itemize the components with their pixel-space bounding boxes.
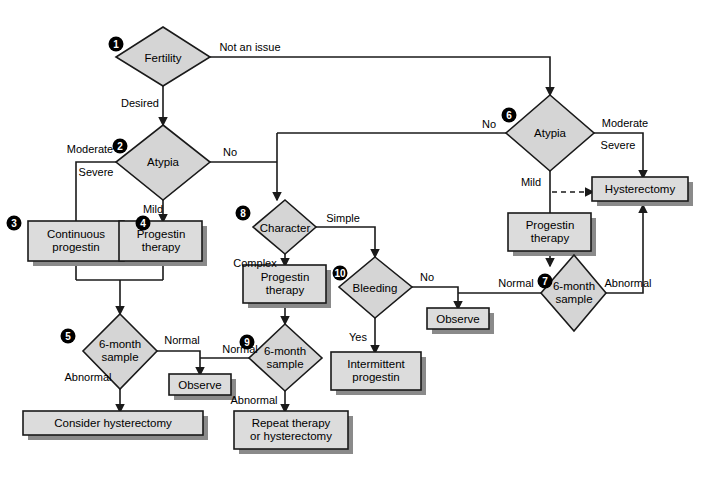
edge-label-severe-2: Severe bbox=[79, 166, 114, 178]
step-badge-4: 4 bbox=[136, 216, 151, 231]
diamond-atypia-2[interactable] bbox=[116, 125, 210, 200]
flowchart-canvas: Fertility Atypia 6-month sample Atypia 6… bbox=[0, 0, 712, 488]
box-progestin-therapy-6[interactable] bbox=[508, 213, 591, 251]
diamond-fertility[interactable] bbox=[116, 27, 210, 86]
edge-label-abnormal-5: Abnormal bbox=[64, 371, 111, 383]
edge-label-abnormal-7: Abnormal bbox=[604, 277, 651, 289]
edge-label-normal-7: Normal bbox=[498, 277, 533, 289]
box-continuous-progestin[interactable] bbox=[28, 221, 124, 261]
edge-label-normal-5: Normal bbox=[164, 334, 199, 346]
step-badge-1: 1 bbox=[109, 37, 124, 52]
edge-no-10 bbox=[412, 287, 458, 309]
box-progestin-therapy-4[interactable] bbox=[119, 221, 202, 261]
step-badge-10: 10 bbox=[333, 266, 348, 281]
box-observe-5[interactable] bbox=[169, 374, 231, 395]
edge-label-abnormal-9: Abnormal bbox=[230, 394, 277, 406]
edge-label-desired: Desired bbox=[121, 97, 159, 109]
edge-normal-5 bbox=[157, 351, 200, 375]
step-badge-6: 6 bbox=[502, 108, 517, 123]
edge-label-simple-8: Simple bbox=[326, 212, 360, 224]
flowchart-graphics bbox=[0, 0, 712, 488]
diamond-atypia-6[interactable] bbox=[506, 95, 594, 171]
box-hysterectomy[interactable] bbox=[592, 177, 688, 201]
diamond-character-8[interactable] bbox=[253, 200, 316, 254]
box-intermittent-progestin[interactable] bbox=[331, 352, 421, 390]
edge-label-no-10: No bbox=[420, 271, 434, 283]
edge-label-no-2: No bbox=[223, 146, 237, 158]
box-progestin-therapy-8[interactable] bbox=[243, 265, 326, 303]
box-observe-7[interactable] bbox=[427, 308, 489, 329]
diamond-bleeding-10[interactable] bbox=[339, 257, 412, 318]
diamond-sample-7[interactable] bbox=[541, 255, 606, 331]
edge-label-moderate-2: Moderate bbox=[67, 143, 113, 155]
edge-label-no-6: No bbox=[482, 118, 496, 130]
edge-label-severe-6: Severe bbox=[601, 139, 636, 151]
step-badge-8: 8 bbox=[236, 206, 251, 221]
edge-label-yes-10: Yes bbox=[349, 331, 367, 343]
node-shapes bbox=[23, 27, 693, 454]
step-badge-5: 5 bbox=[61, 329, 76, 344]
edge-label-moderate-6: Moderate bbox=[602, 117, 648, 129]
diamond-sample-9[interactable] bbox=[249, 324, 322, 391]
edge-label-complex-8: Complex bbox=[233, 257, 276, 269]
edge-simple-8 bbox=[316, 227, 375, 257]
step-badge-7: 7 bbox=[538, 274, 553, 289]
box-consider-hysterectomy[interactable] bbox=[23, 411, 203, 435]
edge-label-not-an-issue: Not an issue bbox=[219, 41, 280, 53]
edge-not-an-issue bbox=[208, 57, 550, 95]
step-badge-2: 2 bbox=[113, 139, 128, 154]
edge-label-mild-2: Mild bbox=[143, 203, 163, 215]
step-badge-9: 9 bbox=[240, 335, 255, 350]
box-repeat-therapy[interactable] bbox=[234, 411, 348, 449]
step-badge-3: 3 bbox=[7, 216, 22, 231]
edge-label-mild-6: Mild bbox=[521, 176, 541, 188]
